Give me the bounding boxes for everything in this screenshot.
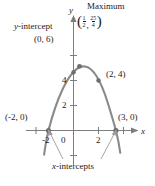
- parabola-figure: Maximum ( 1 2 , 25 4 ) y-intercept (0, 6…: [0, 0, 155, 186]
- vertex-comma: ,: [86, 20, 90, 30]
- vertex-y-denominator: 4: [92, 21, 95, 28]
- marker-vertex: [77, 64, 82, 69]
- y-intercept-point-label: (0, 6): [34, 35, 54, 44]
- x-axis-label: x: [141, 127, 145, 136]
- x-tick-label-0: 0: [61, 136, 66, 145]
- y-axis-label: y: [69, 6, 73, 15]
- left-x-intercept-label: (-2, 0): [5, 113, 28, 122]
- x-tick-label-2: 2: [96, 136, 101, 145]
- x-tick-label-neg2: -2: [42, 136, 50, 145]
- vertex-point-label: ( 1 2 , 25 4 ): [77, 14, 102, 29]
- marker-y-intercept: [71, 70, 75, 74]
- y-tick-label-4: 4: [62, 76, 67, 85]
- y-tick-label-2: 2: [62, 101, 67, 110]
- parabola-curve: [44, 66, 120, 154]
- right-x-intercept-label: (3, 0): [118, 113, 138, 122]
- y-intercept-annotation: y-intercept: [14, 22, 52, 31]
- vertex-y-fraction: 25 4: [90, 15, 97, 29]
- maximum-annotation: Maximum: [87, 2, 125, 11]
- x-axis: [26, 127, 139, 133]
- x-intercepts-annotation: x-intercepts: [52, 162, 94, 171]
- vertex-close-paren: ): [97, 14, 102, 29]
- y-axis: [70, 15, 76, 165]
- x-intercept-leader-lines: [48, 130, 117, 159]
- point-2-4-label: (2, 4): [106, 70, 126, 79]
- marker-point-2-4: [96, 78, 100, 82]
